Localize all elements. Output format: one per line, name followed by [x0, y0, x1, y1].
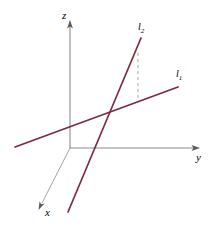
y-axis	[70, 145, 200, 151]
figure-canvas	[0, 0, 214, 229]
line-l1	[15, 87, 178, 147]
z-axis-label: z	[62, 10, 66, 21]
line-l2-label: l2	[138, 22, 144, 35]
y-axis-label: y	[196, 152, 201, 163]
x-axis-arrowhead	[39, 201, 45, 210]
x-axis-line	[42, 148, 70, 203]
line-l1-label-subscript: 1	[179, 74, 183, 82]
line-l1-label: l1	[176, 69, 182, 82]
line-l2	[68, 38, 141, 212]
z-axis	[67, 20, 73, 148]
line-l2-label-subscript: 2	[141, 27, 145, 35]
geometry-figure: z y x l1 l2	[0, 0, 214, 229]
x-axis	[39, 148, 71, 210]
x-axis-label: x	[45, 207, 50, 218]
